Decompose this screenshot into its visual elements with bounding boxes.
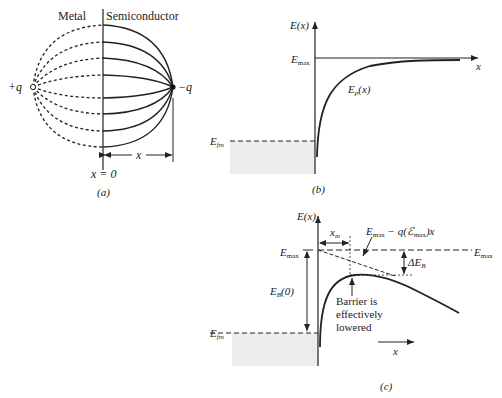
y-axis-label: E(x)	[289, 19, 309, 32]
ep-label: Ep(x)	[347, 83, 371, 97]
semiconductor-label: Semiconductor	[106, 9, 179, 23]
panel-c: E(x) Emax Emax xm Emax − q(ℰmax)x ΔEB EB…	[209, 210, 493, 393]
tangent-label: Emax − q(ℰmax)x	[365, 225, 435, 239]
metal-fermi-sea-c	[232, 333, 318, 366]
negative-charge-icon	[170, 84, 175, 89]
efm-label: Efm	[209, 135, 224, 149]
emax-label-left: Emax	[279, 246, 299, 260]
delta-eb-arrowhead-icon	[401, 251, 407, 258]
note-line-2: effectively	[336, 308, 383, 320]
xm-label: xm	[329, 226, 340, 240]
x-label-c: x	[392, 345, 398, 357]
tangent-pointer-arrow	[363, 237, 372, 256]
metal-label: Metal	[58, 9, 87, 23]
eb0-arrowhead-icon	[304, 251, 310, 258]
positive-image-charge-icon	[30, 84, 35, 89]
panel-b: E(x) x Emax Efm Ep(x) (b)	[209, 19, 481, 196]
negative-charge-label: −q	[178, 80, 192, 94]
y-axis-label-c: E(x)	[296, 210, 316, 223]
caption-a: (a)	[97, 186, 110, 199]
xm-arrowhead-icon	[319, 240, 326, 246]
emax-label: Emax	[290, 53, 310, 67]
image-field-lines	[33, 25, 103, 147]
x-axis-label: x	[475, 60, 481, 72]
metal-fermi-sea	[230, 141, 315, 174]
emax-label-right: Emax	[473, 246, 493, 260]
caption-b: (b)	[312, 183, 325, 196]
image-potential-curve	[317, 60, 460, 157]
positive-charge-label: +q	[8, 80, 22, 94]
delta-eb-label: ΔEB	[407, 256, 426, 270]
distance-label: x	[135, 148, 142, 162]
panel-a: Metal Semiconductor +q −q	[8, 9, 192, 199]
origin-label: x = 0	[90, 167, 116, 181]
eb0-label: EB(0)	[269, 285, 294, 299]
note-line-1: Barrier is	[336, 295, 377, 307]
arrowhead-left-icon	[104, 152, 111, 158]
efm-label-c: Efm	[209, 327, 224, 341]
tangent-line	[318, 250, 395, 276]
schottky-barrier-lowering-figure: Metal Semiconductor +q −q	[0, 0, 502, 398]
caption-c: (c)	[380, 380, 393, 393]
note-line-3: lowered	[336, 321, 372, 333]
field-lines	[103, 25, 173, 147]
